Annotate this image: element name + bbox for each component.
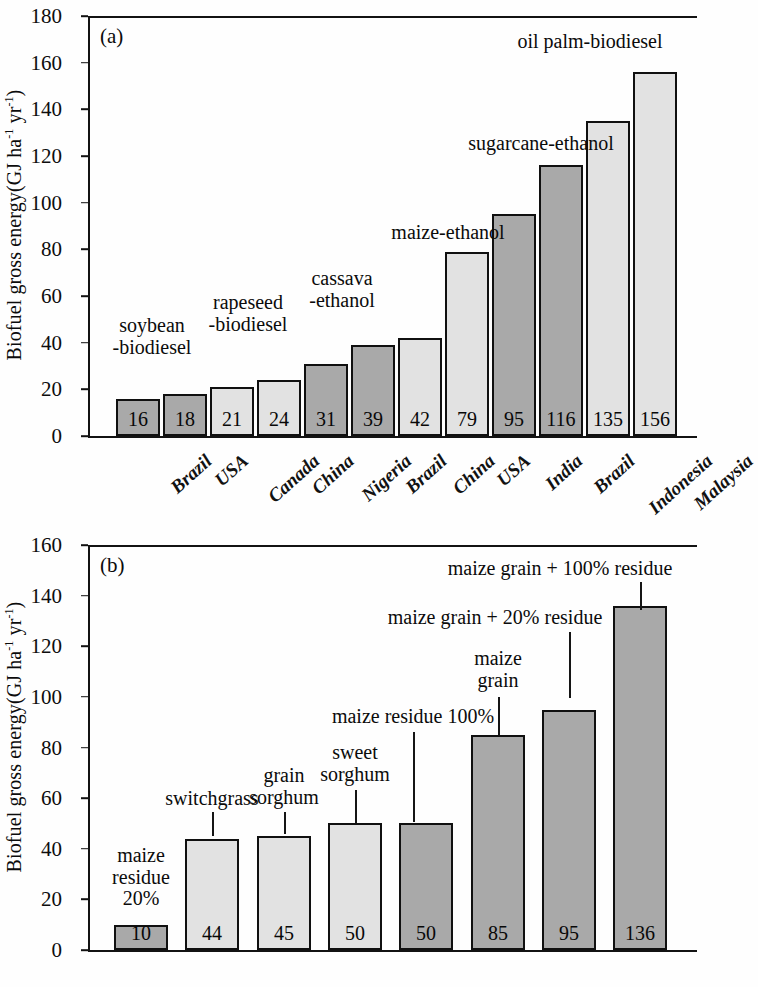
panel-a: Biofuel gross energy(GJ ha-1 yr-1) 02040…	[0, 0, 697, 510]
annotation-label: maizeresidue20%	[0, 845, 311, 910]
bar: 135	[586, 121, 630, 436]
bar-value-label: 116	[546, 409, 575, 434]
bar: 116	[539, 165, 583, 436]
annotation-leader-line	[640, 582, 642, 610]
bar-value-label: 95	[504, 409, 524, 434]
annotation-line: -biodiesel	[2, 337, 302, 359]
bar-value-label: 31	[316, 409, 336, 434]
bar-value-label: 16	[128, 409, 148, 434]
bar: 42	[398, 338, 442, 436]
bar-value-label: 79	[457, 409, 477, 434]
annotation-label: maize-ethanol	[298, 222, 598, 244]
bar-value-label: 21	[222, 409, 242, 434]
annotation-label: maize grain + 100% residue	[390, 558, 730, 580]
bar-value-label: 136	[625, 923, 655, 948]
bar: 156	[633, 72, 677, 436]
annotation-line: maize residue 100%	[243, 706, 583, 728]
annotation-line: sorghum	[185, 764, 525, 786]
annotation-line: maize grain + 20% residue	[325, 607, 665, 629]
annotation-leader-line	[569, 632, 571, 698]
annotation-line: residue	[0, 867, 311, 889]
annotation-line: sorghum	[114, 787, 454, 809]
bar-value-label: 85	[488, 923, 508, 948]
annotation-line: -ethanol	[192, 290, 492, 312]
bar: 50	[328, 823, 382, 950]
bar: 95	[542, 710, 596, 950]
annotation-leader-line	[355, 790, 357, 823]
bar: 50	[399, 823, 453, 950]
annotation-label: cassava-ethanol	[192, 268, 492, 311]
bar: 95	[492, 214, 536, 436]
bar-value-label: 50	[416, 923, 436, 948]
panel-a-bars: 161821243139427995116135156	[0, 0, 697, 510]
annotation-line: maize-ethanol	[298, 222, 598, 244]
annotation-line: maize grain + 100% residue	[390, 558, 730, 580]
bar: 31	[304, 364, 348, 436]
bar-value-label: 39	[363, 409, 383, 434]
x-axis-category-label: USA	[492, 450, 534, 491]
annotation-line: oil palm-biodiesel	[440, 31, 740, 53]
bar: 18	[163, 394, 207, 436]
bar-value-label: 156	[640, 409, 670, 434]
annotation-line: grain	[328, 670, 668, 692]
bar-value-label: 42	[410, 409, 430, 434]
annotation-line: maize	[0, 845, 311, 867]
annotation-line: 20%	[0, 888, 311, 910]
annotation-label: oil palm-biodiesel	[440, 31, 740, 53]
annotation-line: sugarcane-ethanol	[391, 133, 691, 155]
annotation-leader-line	[284, 812, 286, 834]
annotation-leader-line	[413, 732, 415, 822]
annotation-leader-line	[498, 697, 500, 735]
bar: 24	[257, 380, 301, 436]
bar-value-label: 18	[175, 409, 195, 434]
x-axis-category-label: Brazil	[401, 450, 451, 498]
annotation-line: cassava	[192, 268, 492, 290]
annotation-line: -biodiesel	[98, 314, 398, 336]
annotation-line: sweet	[185, 742, 525, 764]
annotation-label: maizegrain	[328, 648, 668, 691]
x-axis-category-label: Brazil	[166, 450, 216, 498]
bar: 10	[114, 925, 168, 950]
bar-value-label: 24	[269, 409, 289, 434]
bar-value-label: 135	[593, 409, 623, 434]
annotation-line: maize	[328, 648, 668, 670]
annotation-label: maize residue 100%	[243, 706, 583, 728]
bar-value-label: 50	[345, 923, 365, 948]
x-axis-category-label: USA	[210, 450, 252, 491]
x-axis-category-label: India	[541, 450, 587, 495]
bar: 21	[210, 387, 254, 436]
bar-value-label: 95	[559, 923, 579, 948]
annotation-label: sweetsorghum	[185, 742, 525, 785]
panel-b: Biofuel gross energy(GJ ha-1 yr-1) 02040…	[0, 520, 697, 987]
bar-value-label: 44	[202, 923, 222, 948]
annotation-leader-line	[212, 812, 214, 836]
bar-value-label: 10	[131, 923, 151, 948]
bar: 39	[351, 345, 395, 436]
bar: 16	[116, 399, 160, 436]
bar-value-label: 45	[274, 923, 294, 948]
annotation-label: maize grain + 20% residue	[325, 607, 665, 629]
annotation-label: sugarcane-ethanol	[391, 133, 691, 155]
panel-a-x-axis-labels: BrazilUSACanadaChinaNigeriaBrazilChinaUS…	[0, 442, 697, 512]
x-axis-category-label: Brazil	[589, 450, 639, 498]
